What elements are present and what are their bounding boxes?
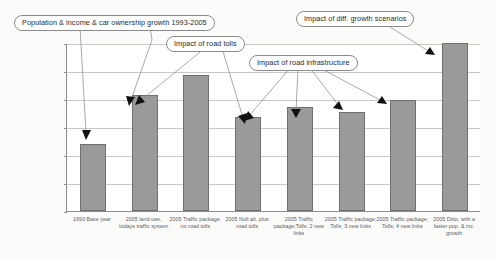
bar — [287, 107, 313, 211]
x-axis-tick-label: 2005 Traffic package; Tolls; 4 new links — [376, 216, 428, 230]
bar — [183, 75, 209, 211]
bar — [235, 117, 261, 211]
bar — [442, 43, 468, 211]
bar — [390, 100, 416, 211]
callout-growth: Population & income & car ownership grow… — [14, 15, 215, 31]
bar — [339, 112, 365, 211]
bar — [80, 144, 106, 211]
bar — [132, 95, 158, 211]
bar-chart: 22 000 00021 000 00020 000 00019 000 000… — [0, 0, 496, 260]
x-axis-tick-label: 2005 Traffic package;Tolls; 2 new links — [273, 216, 325, 238]
x-axis-tick-label: 2005 Traffic package; Tolls; 3 new links — [325, 216, 377, 230]
x-axis-tick-label: 2005 Ditto, with a faster pop. & inc. gr… — [428, 216, 480, 238]
x-axis-tick-label: 2005 Null alt. plus road tolls — [221, 216, 273, 230]
callout-scenarios: Impact of diff. growth scenarios — [296, 11, 414, 27]
callout-tolls: Impact of road tolls — [166, 36, 245, 52]
x-axis-tick-label: 2005 land-use, todays traffic system — [118, 216, 170, 230]
x-axis-tick-label: 1993 Base year — [66, 216, 118, 223]
callout-infrastructure: Impact of road infrastructure — [249, 55, 358, 71]
x-axis: 1993 Base year2005 land-use, todays traf… — [66, 216, 480, 260]
axis-tick — [64, 212, 67, 213]
x-axis-tick-label: 2005 Traffic package, no road tolls — [169, 216, 221, 230]
